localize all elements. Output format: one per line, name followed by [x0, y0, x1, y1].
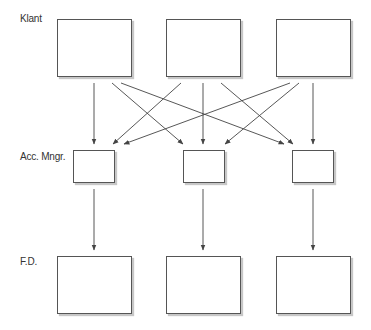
node-acc-mngr-3 [292, 150, 334, 183]
arrow-klant-2-to-acc-mngr-3 [221, 83, 293, 144]
arrow-klant-3-to-acc-mngr-1 [124, 83, 290, 144]
node-fd-3 [276, 256, 351, 314]
arrow-klant-1-to-acc-mngr-3 [121, 83, 284, 144]
node-fd-1 [57, 256, 132, 314]
node-acc-mngr-1 [73, 150, 115, 183]
node-fd-2 [166, 256, 241, 314]
node-klant-2 [166, 19, 241, 77]
node-klant-3 [276, 19, 351, 77]
arrow-klant-3-to-acc-mngr-2 [225, 83, 299, 144]
node-klant-1 [57, 19, 132, 77]
node-acc-mngr-2 [183, 150, 225, 183]
